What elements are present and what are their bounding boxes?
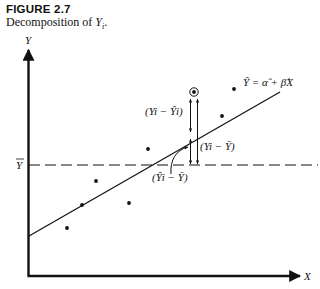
y-axis-label: Y (25, 34, 33, 46)
decomposition-chart: Y X Y Ŷ = α̂ + β̂X (Yi − Ŷi) (Yi − Ȳ) (Ŷ… (0, 0, 320, 289)
svg-text:Y: Y (16, 159, 24, 171)
highlighted-point-yi (190, 88, 198, 96)
total-deviation-label: (Yi − Ȳ) (200, 140, 235, 153)
regression-label: Ŷ = α̂ + β̂X (243, 76, 294, 88)
residual-label: (Yi − Ŷi) (145, 105, 183, 118)
x-axis-label: X (303, 270, 312, 282)
ybar-label: Y (16, 159, 24, 171)
explained-label: (Ŷi − Ȳ) (152, 171, 188, 184)
explained-pointer (171, 147, 188, 174)
